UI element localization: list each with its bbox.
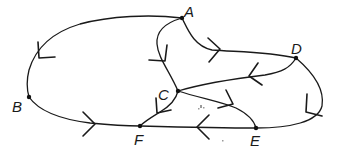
- label-c: C: [158, 86, 169, 103]
- edge-a-to-d: [182, 18, 296, 58]
- edge-d-to-e: [256, 58, 322, 128]
- edge-c-to-e: [178, 91, 256, 128]
- arrow-a-to-b-icon: [38, 42, 55, 58]
- arrow-d-to-c-icon: [249, 63, 262, 85]
- label-a: A: [183, 3, 194, 20]
- edge-a-to-c: [157, 18, 182, 91]
- node-f: [138, 124, 142, 128]
- node-e: [254, 126, 258, 130]
- directed-graph-diagram: A B C D E F: [0, 0, 337, 153]
- edges: [27, 16, 322, 139]
- edge-b-to-f: [29, 97, 140, 126]
- edge-d-to-c: [178, 58, 296, 91]
- arrow-d-to-e-icon: [306, 94, 322, 116]
- label-f: F: [134, 131, 144, 148]
- arrow-b-to-f-icon: [83, 112, 95, 136]
- label-d: D: [291, 40, 302, 57]
- arrow-c-to-e-icon: [218, 90, 233, 108]
- node-c: [176, 89, 180, 93]
- label-e: E: [250, 132, 261, 149]
- nodes: [27, 16, 298, 130]
- label-b: B: [12, 98, 22, 115]
- node-b: [27, 95, 31, 99]
